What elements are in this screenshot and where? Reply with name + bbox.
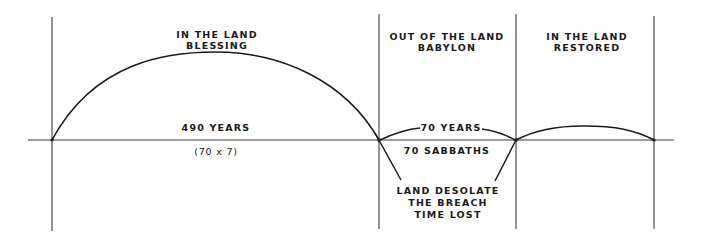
- period-babylon-duration: 70 YEARS: [420, 122, 481, 133]
- period-restored-heading: IN THE LAND RESTORED: [546, 31, 627, 53]
- callout-line-2: THE BREACH: [396, 197, 499, 209]
- period-restored-title: IN THE LAND: [546, 31, 627, 42]
- period-blessing-heading: IN THE LAND BLESSING: [176, 29, 257, 51]
- period-babylon-subtitle: BABYLON: [390, 42, 505, 53]
- period-blessing-title: IN THE LAND: [176, 29, 257, 40]
- callout-pointer-right: [495, 140, 516, 181]
- node-end: [652, 138, 655, 141]
- period-blessing-subtitle: BLESSING: [176, 40, 257, 51]
- period-babylon-heading: OUT OF THE LAND BABYLON: [390, 31, 505, 53]
- period-restored-subtitle: RESTORED: [546, 42, 627, 53]
- arc-babylon-70-years-left: [380, 128, 420, 140]
- period-blessing-note: (70 x 7): [194, 146, 238, 157]
- node-start: [50, 138, 53, 141]
- period-babylon-title: OUT OF THE LAND: [390, 31, 505, 42]
- arc-babylon-70-years-right: [482, 129, 515, 140]
- arc-restored: [516, 126, 654, 140]
- callout-line-1: LAND DESOLATE: [396, 185, 499, 197]
- period-blessing-duration: 490 YEARS: [182, 122, 251, 133]
- callout-line-3: TIME LOST: [396, 209, 499, 221]
- period-babylon-note: 70 SABBATHS: [404, 145, 490, 156]
- callout-desolation: LAND DESOLATE THE BREACH TIME LOST: [396, 185, 499, 221]
- node-babylon-end: [514, 138, 518, 142]
- node-babylon-start: [377, 138, 381, 142]
